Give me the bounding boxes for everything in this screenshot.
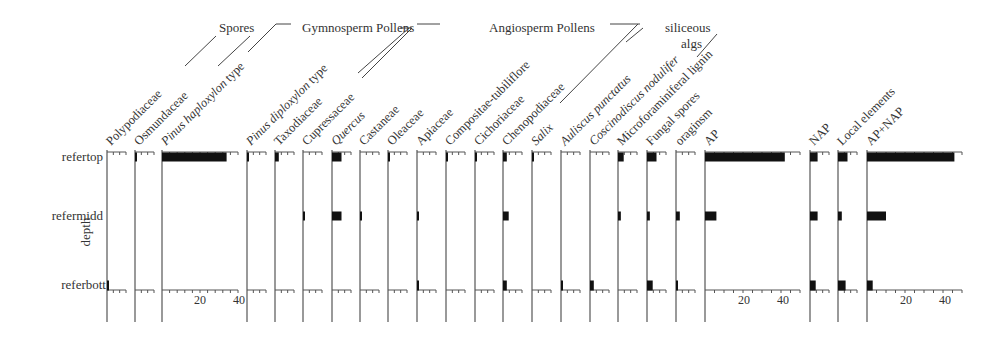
tick-label-ap-20: 20 — [738, 293, 750, 307]
axis-labels: depth refertop refermidd referbott Spore… — [52, 20, 951, 307]
pollen-diagram: PolypodiaceaeOsmundaceaePinus haploxylon… — [0, 0, 1001, 345]
group-label-algs: algs — [681, 36, 702, 51]
bar-refermidd — [705, 212, 716, 221]
bar-referbott — [676, 281, 678, 291]
panel-salix: Salix — [528, 120, 556, 322]
bar-referbott — [810, 281, 816, 291]
bar-refertop — [135, 153, 137, 162]
bar-refertop — [532, 153, 534, 162]
bar-referbott — [838, 281, 846, 291]
tick-label-ap-40: 40 — [777, 293, 789, 307]
bar-refertop — [705, 153, 785, 162]
panel-microforaminiferal-lignin: Microforaminiferal lignin — [614, 47, 715, 322]
taxon-panels: PolypodiaceaeOsmundaceaePinus haploxylon… — [103, 47, 962, 322]
bar-refermidd — [503, 212, 509, 221]
bar-refertop — [446, 153, 448, 162]
bar-referbott — [647, 281, 653, 291]
bar-refertop — [247, 153, 249, 162]
bar-refermidd — [838, 212, 842, 221]
bar-referbott — [107, 281, 109, 291]
bar-refertop — [388, 153, 390, 162]
bar-refermidd — [810, 212, 818, 221]
bar-referbott — [867, 281, 873, 291]
bar-refermidd — [867, 212, 886, 221]
bar-referbott — [417, 281, 419, 291]
bar-refertop — [647, 153, 657, 162]
bar-refertop — [475, 153, 477, 162]
tick-label-pinus-40: 40 — [233, 293, 245, 307]
bar-refertop — [503, 153, 507, 162]
panel-nap: NAP — [806, 121, 834, 322]
group-label-angiosperm: Angiosperm Pollens — [489, 20, 595, 35]
bar-referbott — [503, 281, 507, 291]
group-label-gymnosperm: Gymnosperm Pollens — [302, 20, 414, 35]
group-label-siliceous: siliceous — [665, 20, 711, 35]
group-bracket-line — [560, 24, 638, 103]
bar-refertop — [162, 153, 227, 162]
tick-label-pinus-20: 20 — [194, 293, 206, 307]
tick-label-apnap-20: 20 — [900, 293, 912, 307]
bar-refertop — [275, 153, 279, 162]
bar-refertop — [838, 153, 848, 162]
taxon-label: AP — [701, 127, 722, 148]
bar-refermidd — [676, 212, 680, 221]
group-bracket-line — [362, 28, 412, 78]
depth-label-top: refertop — [62, 149, 103, 164]
bar-refermidd — [417, 212, 419, 221]
bar-refermidd — [332, 212, 342, 221]
bar-refermidd — [303, 212, 305, 221]
bar-refermidd — [647, 212, 650, 221]
panel-ap-nap: AP+NAP — [863, 104, 962, 322]
taxon-label: NAP — [806, 121, 834, 149]
bar-refertop — [810, 153, 818, 162]
group-bracket-line — [626, 28, 643, 42]
bar-refertop — [618, 153, 624, 162]
bar-refermidd — [618, 212, 621, 221]
depth-label-bot: referbott — [61, 277, 106, 292]
bar-refertop — [332, 153, 342, 162]
group-label-spores: Spores — [219, 20, 254, 35]
bar-referbott — [590, 281, 594, 291]
bar-refertop — [867, 153, 954, 162]
bar-refermidd — [360, 212, 362, 221]
group-bracket-line — [185, 36, 216, 66]
depth-label-mid: refermidd — [52, 208, 104, 223]
bar-referbott — [561, 281, 563, 291]
tick-label-apnap-40: 40 — [939, 293, 951, 307]
